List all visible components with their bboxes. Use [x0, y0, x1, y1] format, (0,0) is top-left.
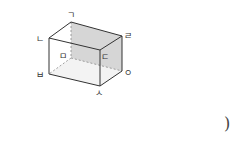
answer-close-paren: ) [224, 114, 230, 133]
vertex-label-m: ㅁ [59, 51, 67, 61]
vertex-label-n: ㄴ [36, 34, 44, 44]
vertex-label-r: ㄹ [124, 31, 132, 41]
vertex-label-s: ㅅ [95, 88, 103, 98]
vertex-label-d: ㄷ [101, 52, 109, 62]
vertex-label-o: ㅇ [124, 68, 132, 78]
vertex-label-b: ㅂ [36, 70, 44, 80]
prism-diagram: ㄱ ㄹ ㄴ ㄷ ㅁ ㅇ ㅂ ㅅ [0, 0, 245, 145]
vertex-label-g: ㄱ [67, 10, 75, 20]
